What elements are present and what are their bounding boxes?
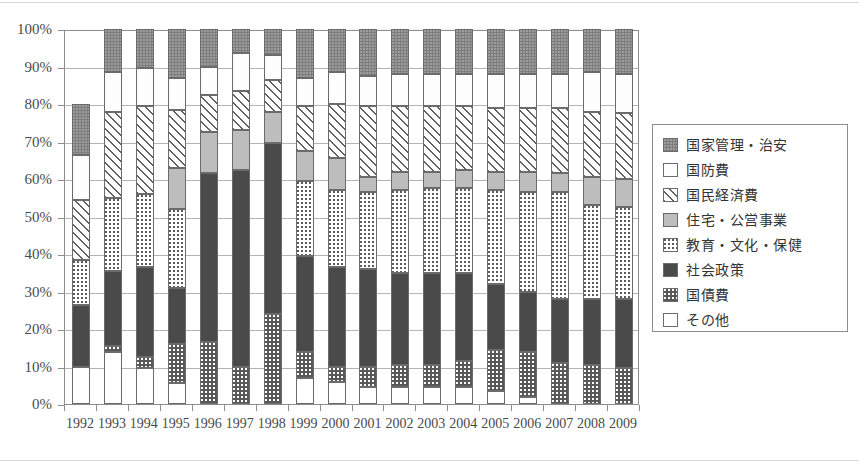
legend-item[interactable]: 国防費 (663, 158, 847, 182)
stacked-bar[interactable] (104, 29, 122, 404)
bar-segment[interactable] (264, 143, 282, 314)
bar-segment[interactable] (104, 29, 122, 72)
bar-segment[interactable] (200, 29, 218, 67)
bar-segment[interactable] (136, 368, 154, 404)
bar-segment[interactable] (487, 391, 505, 404)
bar-segment[interactable] (296, 378, 314, 404)
bar-segment[interactable] (455, 361, 473, 387)
bar-segment[interactable] (136, 267, 154, 357)
bar-segment[interactable] (519, 29, 537, 74)
legend-item[interactable]: 国家管理・治安 (663, 133, 847, 157)
bar-segment[interactable] (519, 397, 537, 405)
bar-segment[interactable] (359, 192, 377, 269)
bar-segment[interactable] (455, 74, 473, 106)
bar-segment[interactable] (328, 104, 346, 158)
bar-segment[interactable] (232, 367, 250, 405)
bar-segment[interactable] (168, 29, 186, 78)
bar-segment[interactable] (200, 342, 218, 404)
bar-segment[interactable] (296, 151, 314, 181)
bar-segment[interactable] (72, 155, 90, 200)
bar-segment[interactable] (168, 288, 186, 344)
bar-segment[interactable] (391, 365, 409, 388)
bar-segment[interactable] (168, 110, 186, 168)
bar-segment[interactable] (200, 173, 218, 342)
bar-segment[interactable] (296, 256, 314, 352)
bar-segment[interactable] (232, 91, 250, 130)
stacked-bar[interactable] (200, 29, 218, 404)
bar-segment[interactable] (423, 172, 441, 189)
bar-segment[interactable] (72, 104, 90, 155)
bar-segment[interactable] (615, 368, 633, 404)
bar-segment[interactable] (551, 192, 569, 299)
bar-segment[interactable] (168, 383, 186, 404)
bar-segment[interactable] (455, 273, 473, 361)
bar-segment[interactable] (423, 29, 441, 74)
bar-segment[interactable] (168, 344, 186, 383)
bar-segment[interactable] (328, 158, 346, 190)
bar-segment[interactable] (391, 190, 409, 273)
bar-segment[interactable] (391, 74, 409, 106)
stacked-bar[interactable] (264, 29, 282, 404)
stacked-bar[interactable] (455, 29, 473, 404)
bar-segment[interactable] (232, 53, 250, 91)
bar-segment[interactable] (359, 106, 377, 177)
bar-segment[interactable] (551, 173, 569, 192)
bar-segment[interactable] (328, 72, 346, 104)
bar-segment[interactable] (519, 292, 537, 352)
bar-segment[interactable] (583, 72, 601, 111)
bar-segment[interactable] (72, 305, 90, 367)
bar-segment[interactable] (487, 350, 505, 391)
bar-segment[interactable] (391, 387, 409, 404)
bar-segment[interactable] (423, 273, 441, 365)
bar-segment[interactable] (359, 29, 377, 76)
bar-segment[interactable] (391, 29, 409, 74)
bar-segment[interactable] (104, 198, 122, 271)
bar-segment[interactable] (104, 346, 122, 352)
bar-segment[interactable] (583, 112, 601, 178)
bar-segment[interactable] (423, 365, 441, 388)
bar-segment[interactable] (72, 260, 90, 305)
stacked-bar[interactable] (232, 29, 250, 404)
legend-item[interactable]: その他 (663, 308, 847, 332)
bar-segment[interactable] (296, 106, 314, 151)
bar-segment[interactable] (551, 74, 569, 108)
bar-segment[interactable] (615, 113, 633, 179)
bar-segment[interactable] (359, 177, 377, 192)
bar-segment[interactable] (104, 271, 122, 346)
bar-segment[interactable] (455, 170, 473, 189)
bar-segment[interactable] (232, 170, 250, 367)
stacked-bar[interactable] (296, 29, 314, 404)
stacked-bar[interactable] (583, 29, 601, 404)
legend-item[interactable]: 国民経済費 (663, 183, 847, 207)
bar-segment[interactable] (359, 269, 377, 367)
bar-segment[interactable] (519, 352, 537, 397)
bar-segment[interactable] (136, 29, 154, 68)
bar-segment[interactable] (551, 108, 569, 174)
bar-segment[interactable] (615, 207, 633, 299)
legend-item[interactable]: 住宅・公営事業 (663, 208, 847, 232)
stacked-bar[interactable] (519, 29, 537, 404)
bar-segment[interactable] (487, 108, 505, 172)
bar-segment[interactable] (328, 367, 346, 382)
bar-segment[interactable] (328, 29, 346, 72)
bar-segment[interactable] (487, 29, 505, 74)
legend-item[interactable]: 教育・文化・保健 (663, 233, 847, 257)
bar-segment[interactable] (104, 72, 122, 111)
bar-segment[interactable] (391, 106, 409, 172)
bar-segment[interactable] (455, 29, 473, 74)
bar-segment[interactable] (359, 76, 377, 106)
stacked-bar[interactable] (551, 29, 569, 404)
bar-segment[interactable] (615, 299, 633, 368)
bar-segment[interactable] (359, 387, 377, 404)
bar-segment[interactable] (168, 168, 186, 209)
bar-segment[interactable] (455, 106, 473, 170)
bar-segment[interactable] (136, 357, 154, 368)
bar-segment[interactable] (200, 132, 218, 173)
bar-segment[interactable] (487, 284, 505, 350)
stacked-bar[interactable] (72, 29, 90, 404)
bar-segment[interactable] (615, 179, 633, 207)
bar-segment[interactable] (104, 112, 122, 198)
bar-segment[interactable] (264, 80, 282, 112)
legend-item[interactable]: 国債費 (663, 283, 847, 307)
bar-segment[interactable] (104, 352, 122, 405)
